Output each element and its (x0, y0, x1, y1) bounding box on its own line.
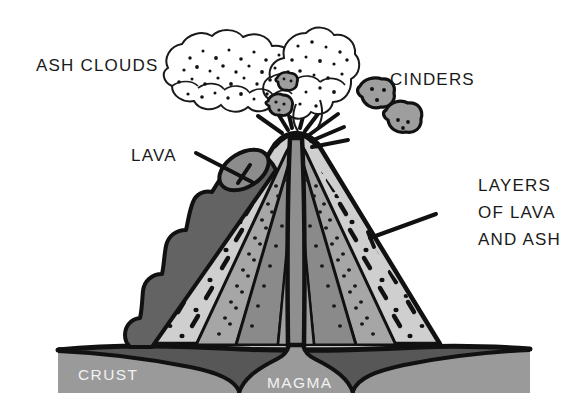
volcano-diagram: ASH CLOUDS CINDERS LAVA LAYERS OF LAVA A… (0, 0, 584, 418)
layers-label-line2: OF LAVA (478, 203, 556, 222)
cinder-3 (266, 94, 293, 116)
diagram-canvas: ASH CLOUDS CINDERS LAVA LAYERS OF LAVA A… (0, 0, 584, 418)
central-vent (288, 138, 305, 345)
cinder-4-body (276, 72, 298, 90)
magma-label: MAGMA (267, 374, 333, 391)
cinders-label: CINDERS (390, 70, 475, 89)
cinder-3-body (266, 94, 293, 116)
ash-clouds-label: ASH CLOUDS (36, 56, 159, 75)
crust-label: CRUST (78, 366, 138, 383)
cinder-4 (276, 72, 298, 90)
layers-label-line3: AND ASH (478, 230, 561, 249)
lava-label: LAVA (131, 146, 177, 165)
layers-label-line1: LAYERS (478, 176, 551, 195)
